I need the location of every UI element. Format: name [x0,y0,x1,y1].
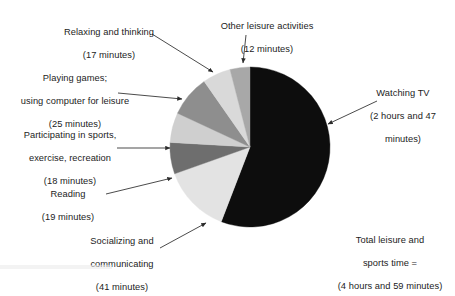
pie-slices-group [170,67,330,227]
label-games-line1: Playing games; [4,73,146,84]
label-socializing-line3: (41 minutes) [64,282,180,293]
label-total-leisure: Total leisure and sports time = (4 hours… [326,224,454,296]
label-other-line2: (12 minutes) [203,44,331,55]
label-socializing-line1: Socializing and [64,236,180,247]
label-reading-line1: Reading [16,189,120,200]
label-relaxing-line1: Relaxing and thinking [34,27,184,38]
label-other-leisure: Other leisure activities (12 minutes) [203,10,331,67]
label-reading-line2: (19 minutes) [16,212,120,223]
label-watching-tv-line1: Watching TV [353,88,453,99]
label-watching-tv-line2: (2 hours and 47 [353,111,453,122]
label-games-line2: using computer for leisure [4,96,146,107]
label-total-line2: sports time = [326,258,454,269]
label-total-line1: Total leisure and [326,235,454,246]
label-watching-tv: Watching TV (2 hours and 47 minutes) [353,77,453,157]
label-sports-line1: Participating in sports, [4,130,136,141]
label-sports-line2: exercise, recreation [4,153,136,164]
label-watching-tv-line3: minutes) [353,134,453,145]
scan-artifact [0,265,112,269]
label-other-line1: Other leisure activities [203,21,331,32]
label-relaxing-line2: (17 minutes) [34,50,184,61]
label-socializing: Socializing and communicating (41 minute… [64,225,180,296]
label-total-line3: (4 hours and 59 minutes) [326,281,454,292]
